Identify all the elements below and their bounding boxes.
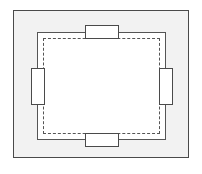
bottom-component: [85, 133, 119, 147]
diagram-canvas: [0, 0, 202, 174]
solid-boundary-rectangle: [37, 32, 166, 140]
right-component: [159, 68, 173, 105]
left-component: [31, 68, 45, 105]
dashed-boundary-rectangle: [43, 38, 160, 134]
top-component: [85, 25, 119, 39]
